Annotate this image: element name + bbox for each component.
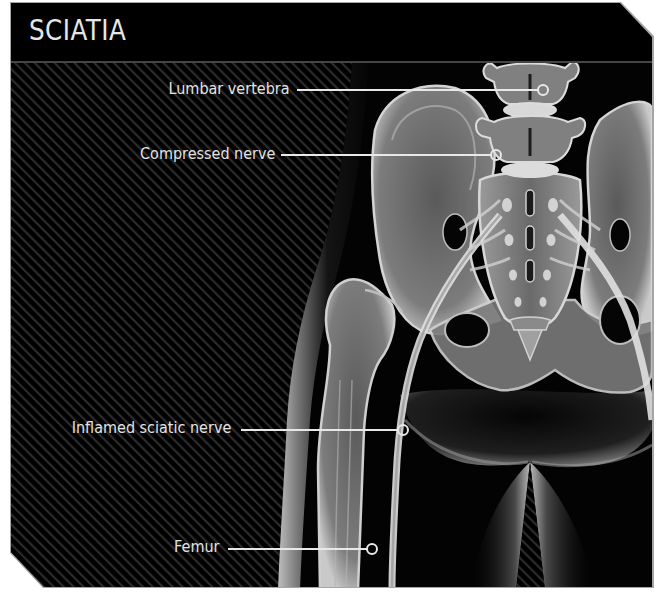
label-inflamed-sciatic-nerve: Inflamed sciatic nerve — [71, 418, 231, 437]
label-lumbar-vertebra: Lumbar vertebra — [169, 79, 290, 98]
sciatica-infographic: SCIATIA Lumbar vertebra Compressed nerve… — [0, 0, 669, 604]
label-femur: Femur — [174, 537, 219, 556]
label-compressed-nerve: Compressed nerve — [140, 144, 275, 163]
infographic-title: SCIATIA — [29, 14, 126, 47]
anatomy-illustration — [0, 0, 669, 604]
